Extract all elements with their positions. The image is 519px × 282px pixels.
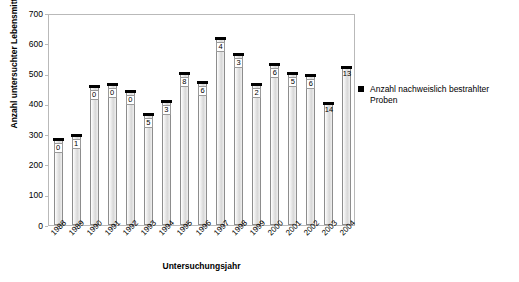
bar [144,115,153,225]
bar [324,104,333,225]
bar-value-label: 5 [288,77,297,87]
bar-value-label: 0 [90,90,99,100]
irradiated-marker [233,53,244,56]
plot-area: 0100053864326561413 [48,14,355,226]
bar-value-label: 13 [338,70,355,79]
bar [162,102,171,225]
bar-slot: 0 [86,13,103,225]
legend-label: Anzahl nachweislich bestrahlter Proben [370,84,489,105]
bar-value-label: 14 [320,106,337,115]
bar [108,85,117,225]
bar-slot: 8 [176,13,193,225]
bar-slot: 1 [68,13,85,225]
bar-value-label: 3 [234,58,243,68]
irradiated-marker [143,113,154,116]
irradiated-marker [125,90,136,93]
bar [216,39,225,225]
bar-value-label: 6 [198,86,207,96]
bar-slot: 6 [266,13,283,225]
bar-value-label: 2 [252,88,261,98]
bar-slot: 4 [212,13,229,225]
y-axis-tick-label: 500 [17,70,43,79]
irradiated-marker [305,74,316,77]
bar-value-label: 4 [216,42,225,52]
irradiated-marker [269,63,280,66]
bar-value-label: 8 [180,77,189,87]
irradiated-marker [107,83,118,86]
bar-value-label: 0 [54,143,63,153]
bar [72,136,81,225]
irradiated-marker [251,83,262,86]
bar-slot: 2 [248,13,265,225]
bar-value-label: 0 [126,95,135,105]
bar-value-label: 1 [72,139,81,149]
y-axis-tick-label: 100 [17,191,43,200]
bar [288,74,297,225]
bar-value-label: 3 [162,105,171,115]
legend: Anzahl nachweislich bestrahlter Proben [358,84,518,106]
bar-value-label: 6 [270,68,279,78]
bar-slot: 13 [338,13,355,225]
bar [180,74,189,225]
bar-slot: 5 [284,13,301,225]
y-axis-tick-label: 0 [17,222,43,231]
irradiated-marker [215,37,226,40]
bar-slot: 6 [302,13,319,225]
bar-value-label: 0 [108,88,117,98]
y-axis-tick-mark [45,226,48,227]
bar-value-label: 6 [306,79,315,89]
y-axis-tick-label: 400 [17,100,43,109]
irradiated-marker [53,138,64,141]
irradiated-marker [179,72,190,75]
bar [252,85,261,225]
y-axis-tick-label: 600 [17,40,43,49]
bar [306,76,315,225]
bar-slot: 0 [104,13,121,225]
bar [234,55,243,225]
bar-slot: 3 [158,13,175,225]
irradiated-marker [197,81,208,84]
bar-value-label: 5 [144,118,153,128]
bar [270,65,279,225]
bar-slot: 0 [122,13,139,225]
bar-series: 0100053864326561413 [49,15,354,225]
irradiated-marker [71,134,82,137]
bar [90,87,99,225]
irradiated-marker [89,85,100,88]
bar-slot: 0 [50,13,67,225]
bar-slot: 5 [140,13,157,225]
legend-swatch-icon [358,86,364,92]
bar-slot: 6 [194,13,211,225]
legend-item-irradiated: Anzahl nachweislich bestrahlter Proben [358,84,518,106]
irradiated-food-bar-chart: Anzahl untersuchter Lebensmittel 0100200… [0,0,519,282]
bar [126,92,135,225]
y-axis-tick-label: 300 [17,131,43,140]
bar [198,83,207,225]
y-axis-tick-label: 200 [17,161,43,170]
bar-slot: 14 [320,13,337,225]
irradiated-marker [287,72,298,75]
irradiated-marker [161,100,172,103]
y-axis-tick-label: 700 [17,10,43,19]
bar-slot: 3 [230,13,247,225]
x-axis-title: Untersuchungsjahr [48,261,355,271]
bar [342,68,351,225]
